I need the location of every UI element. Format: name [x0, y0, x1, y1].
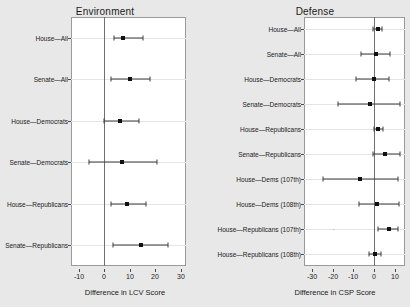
- x-tick-label: 10: [126, 273, 134, 280]
- y-tick-mark: [301, 29, 304, 30]
- point-estimate-marker: [375, 202, 379, 206]
- x-tick-mark: [104, 269, 105, 272]
- y-tick-mark: [68, 204, 71, 205]
- y-tick-mark: [301, 104, 304, 105]
- y-tick-label: House—Democrats: [11, 117, 68, 124]
- confidence-interval-cap: [382, 127, 383, 132]
- y-tick-mark: [301, 129, 304, 130]
- y-tick-mark: [301, 79, 304, 80]
- point-estimate-marker: [376, 27, 380, 31]
- confidence-interval-line: [114, 37, 142, 38]
- gridline: [304, 254, 405, 255]
- y-tick-mark: [68, 245, 71, 246]
- x-tick-label: 30: [177, 273, 185, 280]
- y-tick-mark: [301, 179, 304, 180]
- y-tick-label: Senate—All: [267, 51, 301, 58]
- confidence-interval-cap: [398, 201, 399, 206]
- x-tick-mark: [312, 269, 313, 272]
- x-tick-mark: [395, 269, 396, 272]
- y-tick-mark: [68, 38, 71, 39]
- x-tick-label: 0: [372, 273, 376, 280]
- confidence-interval-cap: [110, 77, 111, 82]
- confidence-interval-cap: [382, 27, 383, 32]
- point-estimate-marker: [387, 227, 391, 231]
- x-tick-label: 20: [151, 273, 159, 280]
- confidence-interval-cap: [142, 35, 143, 40]
- point-estimate-marker: [373, 252, 377, 256]
- x-tick-label: 10: [391, 273, 399, 280]
- confidence-interval-cap: [381, 251, 382, 256]
- y-tick-mark: [301, 254, 304, 255]
- point-estimate-marker: [376, 127, 380, 131]
- confidence-interval-cap: [372, 151, 373, 156]
- point-estimate-marker: [358, 177, 362, 181]
- x-axis-label-defense: Difference in CSP Score: [260, 288, 410, 297]
- point-estimate-marker: [139, 243, 143, 247]
- point-estimate-marker: [128, 77, 132, 81]
- confidence-interval-cap: [110, 201, 111, 206]
- confidence-interval-cap: [398, 226, 399, 231]
- point-estimate-marker: [383, 152, 387, 156]
- point-estimate-marker: [125, 202, 129, 206]
- confidence-interval-cap: [399, 151, 400, 156]
- confidence-interval-cap: [388, 77, 389, 82]
- confidence-interval-cap: [322, 176, 323, 181]
- zero-reference-line: [104, 17, 105, 266]
- point-estimate-marker: [368, 102, 372, 106]
- x-tick-mark: [130, 269, 131, 272]
- point-estimate-marker: [121, 36, 125, 40]
- confidence-interval-cap: [88, 160, 89, 165]
- y-tick-label: House—Republicans: [240, 126, 301, 133]
- figure-root: Environment Difference in LCV Score -100…: [0, 0, 410, 307]
- confidence-interval-cap: [114, 35, 115, 40]
- panel-title-environment: Environment: [20, 6, 190, 17]
- gridline: [304, 29, 405, 30]
- x-axis-label-environment: Difference in LCV Score: [55, 288, 195, 297]
- confidence-interval-cap: [400, 102, 401, 107]
- x-tick-mark: [353, 269, 354, 272]
- confidence-interval-cap: [369, 251, 370, 256]
- point-estimate-marker: [118, 119, 122, 123]
- panel-defense: Defense Difference in CSP Score -30-20-1…: [205, 0, 410, 307]
- x-tick-mark: [181, 269, 182, 272]
- gridline: [304, 129, 405, 130]
- y-tick-label: House—Republicans: [7, 200, 68, 207]
- plot-area-environment: [71, 17, 186, 266]
- confidence-interval-cap: [146, 201, 147, 206]
- point-estimate-marker: [374, 52, 378, 56]
- y-tick-label: Senate—Republicans: [5, 242, 68, 249]
- x-tick-label: -20: [328, 273, 338, 280]
- confidence-interval-cap: [389, 52, 390, 57]
- panel-environment: Environment Difference in LCV Score -100…: [0, 0, 205, 307]
- x-tick-mark: [79, 269, 80, 272]
- y-tick-label: Senate—All: [34, 76, 68, 83]
- confidence-interval-cap: [373, 27, 374, 32]
- confidence-interval-cap: [397, 176, 398, 181]
- x-tick-mark: [155, 269, 156, 272]
- confidence-interval-cap: [113, 243, 114, 248]
- y-tick-label: House—All: [268, 26, 301, 33]
- y-tick-label: House—All: [35, 34, 68, 41]
- confidence-interval-cap: [150, 77, 151, 82]
- scan-artifact: [333, 229, 334, 230]
- y-tick-mark: [68, 79, 71, 80]
- y-tick-mark: [301, 229, 304, 230]
- confidence-interval-cap: [168, 243, 169, 248]
- x-tick-label: -10: [348, 273, 358, 280]
- confidence-interval-cap: [104, 118, 105, 123]
- y-tick-label: House—Republicans (108th): [218, 250, 301, 257]
- confidence-interval-cap: [377, 226, 378, 231]
- confidence-interval-cap: [374, 127, 375, 132]
- confidence-interval-cap: [338, 102, 339, 107]
- panel-title-defense: Defense: [225, 6, 405, 17]
- y-tick-label: House—Dems (107th): [236, 175, 301, 182]
- point-estimate-marker: [120, 160, 124, 164]
- y-tick-label: House—Dems (108th): [236, 200, 301, 207]
- y-tick-mark: [68, 121, 71, 122]
- y-tick-mark: [301, 154, 304, 155]
- confidence-interval-cap: [356, 77, 357, 82]
- x-tick-mark: [333, 269, 334, 272]
- x-tick-label: -30: [307, 273, 317, 280]
- y-tick-mark: [301, 54, 304, 55]
- point-estimate-marker: [372, 77, 376, 81]
